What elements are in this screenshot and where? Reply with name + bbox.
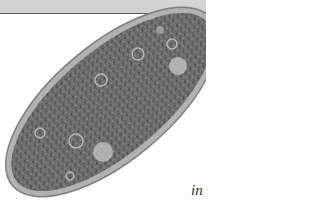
caption-line-1: P	[96, 116, 206, 137]
caption-line-3: mouth	[96, 159, 206, 180]
caption-line-4: in tiny pr	[96, 180, 206, 201]
caption-line-2: look	[96, 138, 206, 159]
figure-caption: P look mouth in tiny pr	[96, 116, 206, 201]
